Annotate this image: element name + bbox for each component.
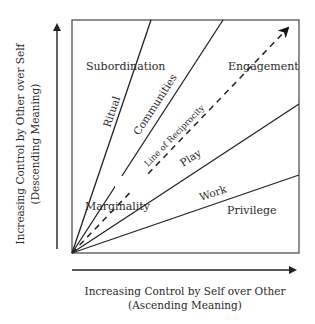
y-axis-label-line1: Increasing Control by Other over Self xyxy=(14,42,26,244)
engagement-label: Engagement xyxy=(228,60,299,73)
privilege-label: Privilege xyxy=(227,204,277,217)
communities-line xyxy=(72,20,223,253)
diagram-canvas: Subordination Engagement Marginality Pri… xyxy=(0,0,315,324)
x-axis-label-line2: (Ascending Meaning) xyxy=(128,299,242,311)
communities-label: Communities xyxy=(131,72,179,138)
x-axis-label-line1: Increasing Control by Self over Other xyxy=(85,285,287,297)
play-label: Play xyxy=(178,146,204,168)
y-axis-label-line2: (Descending Meaning) xyxy=(29,84,41,205)
marginality-label: Marginality xyxy=(85,200,151,213)
subordination-label: Subordination xyxy=(86,60,165,73)
ritual-label: Ritual xyxy=(101,94,123,129)
